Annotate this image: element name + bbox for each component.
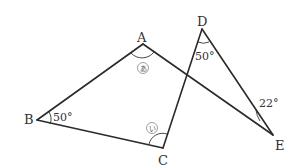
segment-cd (163, 29, 202, 148)
angle-label-e: 22° (259, 97, 279, 110)
segment-bc (37, 120, 163, 148)
angle-label-d: 50° (195, 50, 215, 63)
geometry-figure: A B C D E 50° 50° 22° あ い (0, 0, 301, 168)
angle-arc-a (131, 52, 154, 58)
point-label-c: C (158, 153, 168, 168)
segment-de (202, 29, 273, 135)
angle-label-b: 50° (53, 111, 73, 124)
angle-arc-d (198, 42, 209, 43)
point-label-a: A (136, 30, 147, 45)
point-label-b: B (24, 112, 34, 127)
angle-label-c: い (149, 125, 156, 133)
point-label-e: E (275, 138, 285, 153)
point-label-d: D (197, 14, 207, 29)
segment-ab (37, 44, 143, 120)
angle-label-a: あ (140, 65, 147, 73)
